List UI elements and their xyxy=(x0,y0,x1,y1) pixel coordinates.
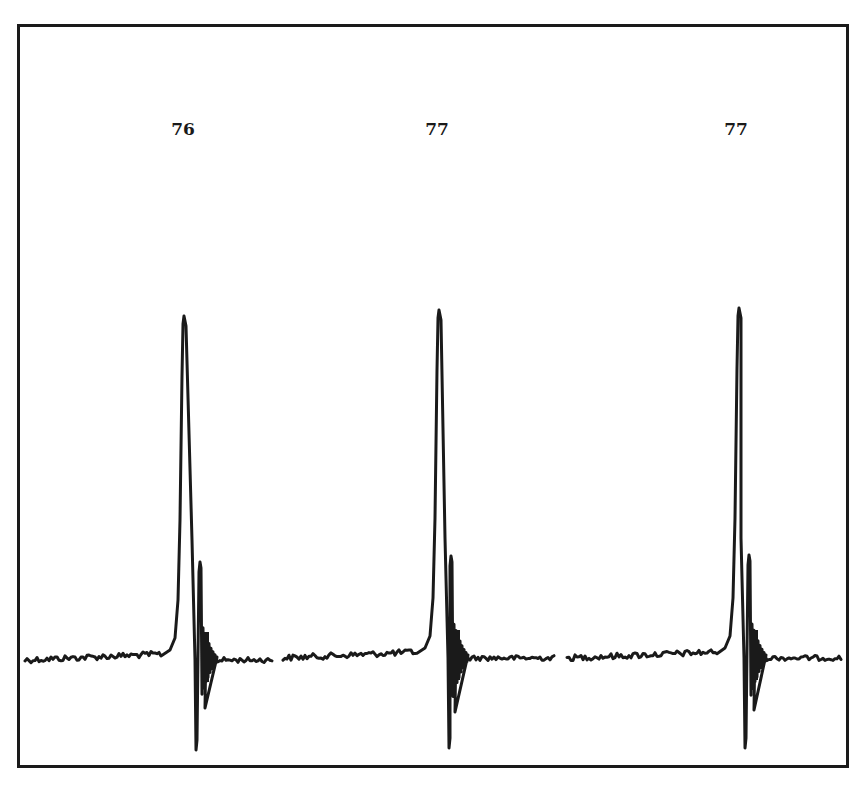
ringing-burst-2 xyxy=(452,630,460,680)
trace-layer xyxy=(0,0,865,785)
ringing-burst-3 xyxy=(750,630,758,680)
spike-trace-1 xyxy=(25,316,272,750)
ringing-burst-1 xyxy=(201,632,209,682)
spike-trace-2 xyxy=(283,310,554,748)
spike-trace-3 xyxy=(567,308,841,748)
figure: 76 77 77 xyxy=(0,0,865,785)
